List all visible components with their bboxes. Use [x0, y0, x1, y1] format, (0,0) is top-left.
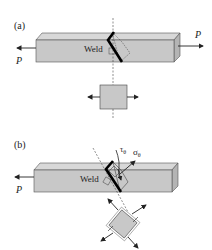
stress-arrow-b-4 — [128, 237, 138, 248]
weld-label-a: Weld — [84, 44, 103, 54]
bar-a — [36, 33, 180, 62]
stress-arrow-b-1 — [108, 199, 118, 210]
shear-stress-label-b: τθ — [120, 145, 126, 155]
weld-diagram: (a) Weld P P (b) — [0, 0, 212, 250]
panel-b-label: (b) — [14, 139, 26, 151]
load-label-right-a: P — [194, 29, 201, 40]
panel-a-label: (a) — [14, 20, 25, 32]
panel-b: (b) τθ σθ Weld P — [14, 139, 178, 248]
panel-a: (a) Weld P P — [14, 18, 203, 118]
weld-label-b: Weld — [80, 174, 99, 184]
stress-arrow-b-2 — [132, 205, 146, 214]
stress-arrow-b-3 — [101, 233, 113, 241]
stress-element-a — [100, 85, 127, 109]
load-label-left-b: P — [15, 184, 22, 195]
load-label-left-a: P — [15, 55, 22, 66]
normal-stress-label-b: σθ — [133, 147, 141, 158]
